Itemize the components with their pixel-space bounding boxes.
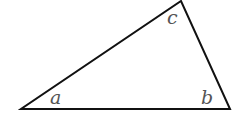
angle-label-b: b [201,86,213,108]
angle-label-c: c [167,6,178,28]
angle-label-a: a [50,86,61,108]
triangle-diagram: a b c [0,0,247,116]
